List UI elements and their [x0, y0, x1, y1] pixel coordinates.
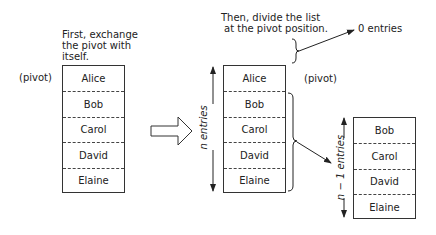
connector-arrows	[0, 0, 436, 235]
quicksort-partition-diagram: First, exchange the pivot with itself. (…	[0, 0, 436, 235]
brace-icon	[288, 93, 297, 191]
arrow-to-zero-icon	[299, 30, 354, 51]
arrow-to-sublist-icon	[297, 142, 331, 163]
brace-icon	[292, 39, 299, 63]
